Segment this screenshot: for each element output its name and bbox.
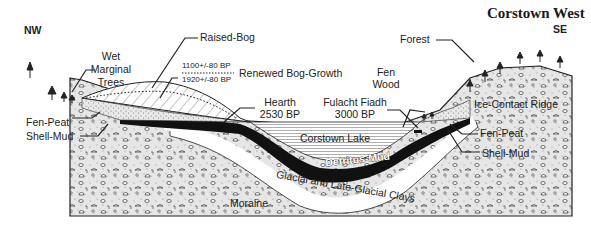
hearth-label-1: Hearth xyxy=(264,96,296,108)
fen-peat-layer-right xyxy=(420,100,470,122)
fen-wood-label-1: Fen xyxy=(377,66,395,78)
fulacht-fiadh-label-1: Fulacht Fiadh xyxy=(323,96,387,108)
fen-peat-left-label: Fen-Peat xyxy=(26,116,69,128)
hearth-marker xyxy=(218,124,226,127)
fulacht-fiadh-label-2: 3000 BP xyxy=(335,108,375,120)
moraine-label: Moraine xyxy=(230,197,268,209)
hearth-label-2: 2530 BP xyxy=(260,108,300,120)
shell-mud-right-label: Shell-Mud xyxy=(482,147,529,159)
wet-marginal-trees-label-1: Wet xyxy=(102,50,121,62)
forest-label: Forest xyxy=(400,33,430,45)
ice-contact-ridge-label: Ice-Contact Ridge xyxy=(474,98,558,110)
diagram-title: Corstown West xyxy=(487,5,585,21)
date-upper-label: 1100+/-80 BP xyxy=(182,61,231,70)
cross-section-diagram: Corstown West NW SE Raised-Bog Wet Margi… xyxy=(0,0,591,231)
leader-forest xyxy=(436,40,474,62)
fen-wood-label-2: Wood xyxy=(372,78,399,90)
corstown-lake-label: Corstown Lake xyxy=(300,132,370,144)
renewed-bog-growth-label: Renewed Bog-Growth xyxy=(239,67,342,79)
orientation-nw: NW xyxy=(24,24,42,36)
wet-marginal-trees-label-3: Trees xyxy=(98,76,124,88)
raised-bog-label: Raised-Bog xyxy=(200,31,255,43)
wet-marginal-trees-label-2: Marginal xyxy=(91,63,131,75)
fen-peat-right-label: Fen-Peat xyxy=(480,127,523,139)
fulacht-fiadh-marker xyxy=(414,130,422,133)
orientation-se: SE xyxy=(553,23,567,35)
trees-left-icon xyxy=(27,62,75,103)
date-lower-label: 1920+/-80 BP xyxy=(182,75,231,84)
shell-mud-left-label: Shell-Mud xyxy=(26,130,73,142)
